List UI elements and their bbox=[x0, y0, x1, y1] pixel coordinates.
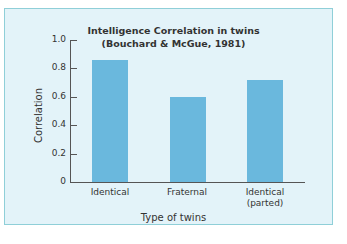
y-tick-0.2 bbox=[70, 154, 77, 155]
bar-identical bbox=[92, 60, 128, 182]
y-tick-label: 0.6 bbox=[36, 91, 66, 101]
y-tick-0.4 bbox=[70, 125, 77, 126]
x-tick-label: Identical bbox=[70, 187, 150, 198]
x-tick-label: Identical (parted) bbox=[225, 187, 305, 209]
y-tick-label: 1.0 bbox=[36, 34, 66, 44]
y-tick-label: 0.2 bbox=[36, 148, 66, 158]
x-tick-label-line2: (parted) bbox=[225, 198, 305, 209]
bar-identical-parted bbox=[247, 80, 283, 182]
y-tick-label: 0.8 bbox=[36, 62, 66, 72]
y-axis-title: Correlation bbox=[33, 76, 44, 156]
y-tick-1.0 bbox=[70, 40, 77, 41]
x-axis bbox=[70, 182, 305, 183]
y-tick-0.8 bbox=[70, 68, 77, 69]
y-tick-label: 0.4 bbox=[36, 119, 66, 129]
x-tick-label-line1: Identical bbox=[225, 187, 305, 198]
y-tick-label: 0 bbox=[36, 176, 66, 186]
bar-fraternal bbox=[170, 97, 206, 182]
y-axis bbox=[70, 40, 71, 183]
y-tick-0.6 bbox=[70, 97, 77, 98]
x-axis-title: Type of twins bbox=[0, 212, 347, 223]
x-tick-label: Fraternal bbox=[147, 187, 227, 198]
